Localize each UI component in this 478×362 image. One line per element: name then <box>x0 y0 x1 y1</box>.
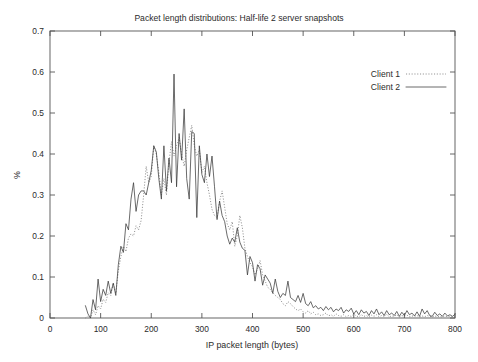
y-tick-label: 0.4 <box>32 149 44 159</box>
x-tick-label: 300 <box>195 324 209 334</box>
chart-title: Packet length distributions: Half-life 2… <box>134 13 343 23</box>
series-layer <box>85 74 455 318</box>
series-client-1 <box>85 125 455 318</box>
x-tick-label: 100 <box>94 324 108 334</box>
y-tick-label: 0.1 <box>32 272 44 282</box>
x-tick-label: 500 <box>296 324 310 334</box>
x-tick-label: 600 <box>347 324 361 334</box>
x-tick-label: 0 <box>48 324 53 334</box>
y-tick-label: 0.7 <box>32 26 44 36</box>
y-tick-label: 0 <box>39 313 44 323</box>
y-axis-label: % <box>12 171 22 179</box>
chart-figure: Packet length distributions: Half-life 2… <box>0 0 478 362</box>
legend-item-client-1-label: Client 1 <box>371 69 400 79</box>
x-tick-label: 400 <box>246 324 260 334</box>
y-tick-label: 0.3 <box>32 190 44 200</box>
packet-length-line-chart: Packet length distributions: Half-life 2… <box>0 0 478 362</box>
y-tick-label: 0.6 <box>32 67 44 77</box>
series-client-2 <box>85 74 455 318</box>
y-tick-label: 0.5 <box>32 108 44 118</box>
x-tick-label: 200 <box>144 324 158 334</box>
x-axis-label: IP packet length (bytes) <box>206 340 298 350</box>
y-tick-label: 0.2 <box>32 231 44 241</box>
x-tick-label: 800 <box>448 324 462 334</box>
x-tick-label: 700 <box>397 324 411 334</box>
chart-legend: Client 1 Client 2 <box>371 69 446 92</box>
legend-item-client-2-label: Client 2 <box>371 82 400 92</box>
